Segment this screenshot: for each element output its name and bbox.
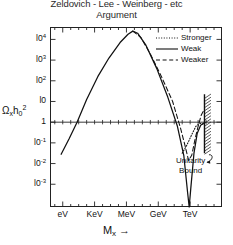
- unitarity-bound-line2: Bound: [176, 166, 205, 176]
- chart-title-line2: Argument: [0, 9, 233, 20]
- y-tick-label: l0-3: [34, 178, 46, 188]
- x-tick-label: GeV: [150, 209, 167, 219]
- y-axis-label-h-sup: 2: [22, 104, 26, 111]
- y-tick-label: l04: [36, 33, 46, 43]
- x-tick-label: eV: [58, 209, 68, 219]
- legend: StrongerWeakWeaker: [156, 32, 212, 65]
- legend-label: Weak: [181, 44, 201, 53]
- legend-swatch-dashed: [156, 56, 178, 64]
- y-tick-label: l0-2: [34, 158, 46, 168]
- y-tick-label: l02: [36, 75, 46, 85]
- x-axis-label: Mx →: [0, 224, 233, 238]
- chart-root: Zeldovich - Lee - Weinberg - etc Argumen…: [0, 0, 233, 245]
- legend-item: Stronger: [156, 32, 212, 43]
- x-axis-arrow-icon: →: [119, 224, 130, 236]
- y-axis-label-h-sub: 0: [19, 110, 23, 117]
- x-tick-label: TeV: [183, 209, 198, 219]
- legend-swatch-dotted: [156, 34, 178, 42]
- legend-label: Stronger: [181, 33, 212, 42]
- y-tick-label: l0: [39, 95, 46, 105]
- unitarity-bound-line1: Unitarity: [176, 156, 205, 166]
- x-tick-label: MeV: [118, 209, 135, 219]
- x-axis-label-m: M: [103, 224, 112, 236]
- y-tick-label: l0-1: [34, 137, 46, 147]
- chart-title-line1: Zeldovich - Lee - Weinberg - etc: [0, 0, 233, 9]
- legend-item: Weak: [156, 43, 212, 54]
- x-tick-label: KeV: [87, 209, 103, 219]
- legend-item: Weaker: [156, 54, 212, 65]
- y-tick-label: 1: [41, 116, 46, 126]
- unitarity-bound-annotation: Unitarity Bound: [176, 156, 205, 175]
- y-axis-label: Ωxh02: [2, 104, 26, 117]
- legend-swatch-solid: [156, 45, 178, 53]
- x-axis-label-sub: x: [112, 229, 116, 238]
- legend-label: Weaker: [181, 55, 208, 64]
- y-tick-label: l03: [36, 54, 46, 64]
